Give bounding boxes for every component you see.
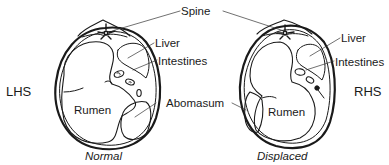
label-spine: Spine <box>181 5 210 17</box>
caption-normal: Normal <box>85 150 122 162</box>
caption-displaced: Displaced <box>257 150 308 162</box>
abomasum-displacement-diagram <box>0 0 389 165</box>
label-intestines-normal: Intestines <box>158 55 207 67</box>
label-intestines-displaced: Intestines <box>335 56 384 68</box>
label-rumen-normal: Rumen <box>74 104 111 116</box>
label-abomasum: Abomasum <box>166 97 224 109</box>
leader-lines <box>112 11 340 117</box>
label-lhs: LHS <box>6 86 31 98</box>
label-rhs: RHS <box>354 86 381 98</box>
label-rumen-displaced: Rumen <box>268 106 305 118</box>
normal-cross-section <box>55 20 160 149</box>
spine-vertebra-icon <box>98 24 115 39</box>
displaced-cross-section <box>240 20 335 148</box>
label-liver-displaced: Liver <box>341 32 366 44</box>
label-liver-normal: Liver <box>155 37 180 49</box>
